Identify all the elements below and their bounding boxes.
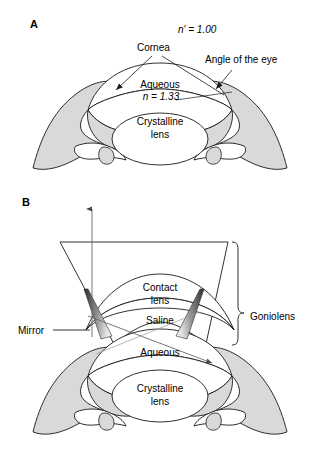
contact-lens-label-2: lens [151, 295, 169, 306]
saline-label: Saline [146, 315, 174, 326]
cornea-label: Cornea [137, 42, 170, 53]
contact-lens-label-1: Contact [143, 282, 178, 293]
aqueous-label-b: Aqueous [140, 347, 179, 358]
crystalline-lens-label-a2: lens [151, 129, 169, 140]
panel-b-label: B [22, 196, 30, 208]
goniolens-label: Goniolens [250, 311, 295, 322]
refractive-index-aqueous-label: n = 1.33 [143, 91, 180, 102]
crystalline-lens-label-a1: Crystalline [137, 116, 184, 127]
crystalline-lens-label-b2: lens [151, 396, 169, 407]
angle-of-the-eye-label: Angle of the eye [205, 54, 278, 65]
panel-a-label: A [30, 18, 38, 30]
aqueous-label-a: Aqueous [140, 79, 179, 90]
refractive-index-air-label: n′ = 1.00 [178, 24, 217, 35]
gonioscopy-figure: A n′ = 1.00 Cornea Angle of the eye A [0, 0, 320, 453]
mirror-label: Mirror [18, 325, 45, 336]
crystalline-lens-label-b1: Crystalline [137, 383, 184, 394]
